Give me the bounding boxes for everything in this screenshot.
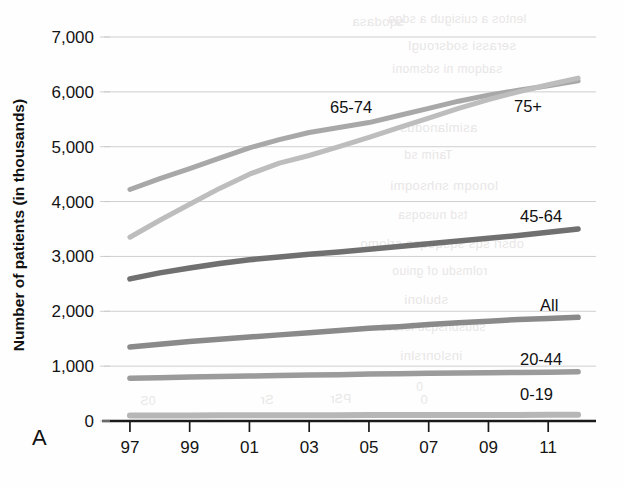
- x-axis-tick-labels: 9799010305070911: [120, 438, 557, 457]
- line-chart: 01,0002,0003,0004,0005,0006,0007,000 979…: [0, 0, 624, 489]
- series-label-all: All: [540, 296, 558, 314]
- series-line-20-44: [130, 372, 578, 379]
- y-tick-label: 0: [85, 412, 94, 431]
- x-tick-label: 09: [479, 438, 498, 457]
- y-tick-label: 5,000: [51, 138, 94, 157]
- series-label-65-74: 65-74: [330, 98, 372, 116]
- figure-panel: sqodasalentos a cuisigub a sdgoserassi s…: [0, 0, 624, 489]
- x-tick-label: 05: [359, 438, 378, 457]
- y-tick-label: 3,000: [51, 247, 94, 266]
- x-tick-label: 99: [180, 438, 199, 457]
- x-tick-label: 11: [539, 438, 557, 457]
- x-tick-label: 03: [300, 438, 319, 457]
- y-axis-title: Number of patients (in thousands): [10, 99, 27, 351]
- series-label-45-64: 45-64: [520, 207, 562, 225]
- y-tick-label: 7,000: [51, 28, 94, 47]
- series-line-45-64: [130, 229, 578, 279]
- y-tick-label: 1,000: [51, 357, 94, 376]
- series-label-0-19: 0-19: [520, 385, 553, 403]
- y-tick-label: 2,000: [51, 302, 94, 321]
- y-tick-label: 4,000: [51, 193, 94, 212]
- series-label-75-: 75+: [514, 97, 542, 115]
- y-axis-tick-labels: 01,0002,0003,0004,0005,0006,0007,000: [51, 28, 94, 431]
- y-tick-label: 6,000: [51, 83, 94, 102]
- x-tick-label: 01: [240, 438, 259, 457]
- x-tick-label: 97: [120, 438, 139, 457]
- series-line-all: [130, 317, 578, 347]
- panel-label: A: [32, 425, 47, 450]
- series-label-20-44: 20-44: [520, 350, 562, 368]
- x-tick-label: 07: [419, 438, 438, 457]
- data-series-group: [130, 78, 578, 415]
- series-line-0-19: [130, 415, 578, 416]
